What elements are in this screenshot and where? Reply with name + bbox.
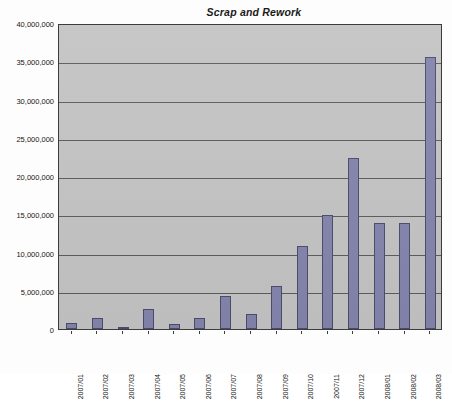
bar bbox=[399, 223, 410, 329]
x-axis-tick-mark bbox=[71, 331, 72, 334]
y-axis-tick-label: 40,000,000 bbox=[0, 20, 54, 29]
x-axis-tick-mark bbox=[173, 331, 174, 334]
y-axis-tick-label: 15,000,000 bbox=[0, 211, 54, 220]
x-axis-tick-mark bbox=[224, 331, 225, 334]
x-axis-tick-mark bbox=[122, 331, 123, 334]
x-axis-tick-label: 2007/07 bbox=[228, 373, 240, 403]
plot-area bbox=[58, 24, 442, 330]
x-axis-tick-label: 2007/11 bbox=[331, 373, 343, 403]
x-axis-tick-label: 2007/05 bbox=[177, 373, 189, 403]
bar bbox=[220, 296, 231, 329]
bar bbox=[246, 314, 257, 329]
x-axis-tick-mark bbox=[429, 331, 430, 334]
x-axis-tick-mark bbox=[378, 331, 379, 334]
x-axis-tick-mark bbox=[199, 331, 200, 334]
x-axis-tick-label: 2007/08 bbox=[254, 373, 266, 403]
x-axis-tick-mark bbox=[352, 331, 353, 334]
x-axis-tick-mark bbox=[96, 331, 97, 334]
y-axis-tick-label: 25,000,000 bbox=[0, 134, 54, 143]
x-axis-tick-label: 2007/09 bbox=[280, 373, 292, 403]
chart-title: Scrap and Rework bbox=[0, 6, 452, 18]
bar bbox=[297, 246, 308, 329]
bar bbox=[118, 327, 129, 329]
x-axis-tick-mark bbox=[250, 331, 251, 334]
bar bbox=[194, 318, 205, 329]
x-axis-tick-label: 2008/01 bbox=[382, 373, 394, 403]
x-axis-tick-label: 2007/03 bbox=[126, 373, 138, 403]
bar bbox=[425, 57, 436, 329]
y-axis-tick-label: 5,000,000 bbox=[0, 287, 54, 296]
bar bbox=[271, 286, 282, 329]
x-axis-tick-label: 2007/10 bbox=[305, 373, 317, 403]
y-axis-tick-label: 10,000,000 bbox=[0, 249, 54, 258]
bar-series bbox=[59, 25, 441, 329]
bar bbox=[66, 323, 77, 329]
y-axis-tick-label: 0 bbox=[0, 326, 54, 335]
bar bbox=[374, 223, 385, 329]
x-axis-tick-label: 2007/12 bbox=[356, 373, 368, 403]
y-axis-tick-label: 20,000,000 bbox=[0, 173, 54, 182]
x-axis-tick-label: 2008/03 bbox=[433, 373, 445, 403]
x-axis-tick-mark bbox=[276, 331, 277, 334]
x-axis-tick-mark bbox=[301, 331, 302, 334]
x-axis-tick-mark bbox=[327, 331, 328, 334]
x-axis-tick-label: 2007/01 bbox=[75, 373, 87, 403]
bar bbox=[92, 318, 103, 329]
y-axis-tick-label: 35,000,000 bbox=[0, 58, 54, 67]
bar bbox=[322, 215, 333, 329]
x-axis-tick-label: 2008/02 bbox=[408, 373, 420, 403]
x-axis-tick-mark bbox=[148, 331, 149, 334]
bar bbox=[143, 309, 154, 329]
y-axis-tick-label: 30,000,000 bbox=[0, 96, 54, 105]
x-axis: 2007/012007/022007/032007/042007/052007/… bbox=[58, 331, 442, 374]
bar bbox=[348, 158, 359, 329]
bar bbox=[169, 324, 180, 329]
x-axis-tick-label: 2007/04 bbox=[152, 373, 164, 403]
x-axis-tick-label: 2007/02 bbox=[100, 373, 112, 403]
x-axis-tick-mark bbox=[404, 331, 405, 334]
x-axis-tick-label: 2007/06 bbox=[203, 373, 215, 403]
